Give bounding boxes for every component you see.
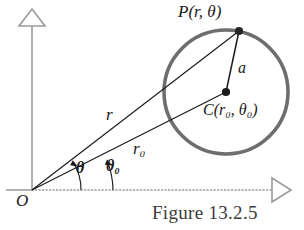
label-segment-r-text: r	[106, 105, 113, 124]
label-center-c-text: C(r₀, θ₀)	[203, 101, 258, 118]
label-radius-a-text: a	[238, 59, 246, 76]
label-origin: O	[16, 192, 28, 209]
label-origin-text: O	[16, 191, 28, 210]
figure-drawing	[0, 0, 304, 230]
label-radius-a: a	[238, 60, 246, 76]
label-angle-theta-text: θ	[76, 159, 84, 176]
label-center-c: C(r₀, θ₀)	[203, 102, 258, 118]
figure-caption: Figure 13.2.5	[152, 203, 258, 222]
label-point-p: P(r, θ)	[178, 3, 221, 20]
label-segment-r0: r₀	[133, 140, 146, 157]
figure-container: P(r, θ) C(r₀, θ₀) a r r₀ θ θ₀ O Figure 1…	[0, 0, 304, 230]
label-angle-theta: θ	[76, 160, 84, 176]
label-angle-theta0-text: θ₀	[106, 157, 120, 174]
label-point-p-text: P(r, θ)	[178, 2, 221, 21]
label-segment-r: r	[106, 106, 113, 123]
point-c-marker	[222, 88, 230, 96]
y-axis-arrowhead-icon	[19, 9, 45, 26]
label-angle-theta0: θ₀	[106, 158, 120, 174]
label-segment-r0-text: r₀	[133, 139, 146, 158]
x-axis-arrowhead-icon	[272, 178, 291, 202]
point-p-marker	[235, 27, 243, 35]
segment-r0-line	[32, 92, 226, 190]
